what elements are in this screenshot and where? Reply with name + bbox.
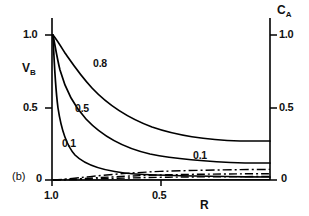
- panel-label: (b): [12, 171, 25, 182]
- right-tick-label-3: 0: [281, 173, 287, 184]
- bottom-tick-label-2: 0.5: [152, 190, 166, 201]
- left-axis-title: VB: [22, 62, 36, 74]
- curve-0-8: [53, 35, 270, 141]
- curve-label-0-5: 0.5: [75, 103, 89, 114]
- chart-plot-area: [0, 0, 309, 216]
- right-axis-title-main: C: [277, 3, 286, 17]
- curve-label-0-1-dashdot: 0.1: [193, 150, 207, 161]
- right-tick-label-2: 0.5: [279, 102, 293, 113]
- left-tick-label-3: 0: [36, 173, 42, 184]
- right-tick-label-1: 1.0: [279, 29, 293, 40]
- bottom-tick-label-1: 1.0: [44, 190, 58, 201]
- bottom-axis-title: R: [200, 199, 209, 211]
- curve-label-0-1: 0.1: [62, 138, 76, 149]
- figure-panel-b: 1.0 0.5 0 1.0 0.5 0 1.0 0.5 VB CA R (b) …: [0, 0, 309, 216]
- right-axis-title: CA: [277, 4, 291, 16]
- left-axis-title-subscript: B: [30, 68, 36, 77]
- left-tick-label-1: 1.0: [23, 29, 37, 40]
- left-axis-title-main: V: [22, 61, 30, 75]
- curve-0-5: [53, 35, 270, 163]
- right-axis-title-subscript: A: [286, 10, 292, 19]
- curve-label-0-8: 0.8: [93, 58, 107, 69]
- left-tick-label-2: 0.5: [23, 102, 37, 113]
